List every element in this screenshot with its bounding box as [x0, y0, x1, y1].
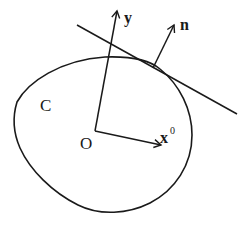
vector-x0-superscript: 0 [170, 125, 175, 136]
vector-n-label: n [180, 16, 189, 33]
diagram-canvas: C O y x 0 n [0, 0, 250, 228]
origin-label: O [80, 134, 92, 153]
vector-y-label: y [124, 9, 132, 27]
vector-y-arrow [95, 11, 117, 131]
diagram-svg: C O y x 0 n [0, 0, 250, 228]
vector-x0-arrow [95, 131, 161, 145]
curve-label: C [40, 96, 51, 115]
vector-n-arrow [153, 25, 174, 68]
vector-x0-label: x [160, 129, 168, 146]
